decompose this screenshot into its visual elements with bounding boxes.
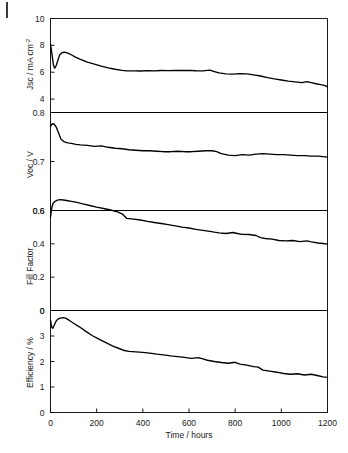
x-axis-tick-label: 1000: [272, 418, 291, 428]
panel-voc-frame: [51, 113, 328, 211]
panel-fill-factor-frame: [51, 211, 328, 311]
panel-efficiency-ytick-label: 0: [40, 408, 45, 418]
panel-voc-ytick-label: 0.8: [33, 108, 45, 118]
panel-efficiency-ytick-label: 3: [40, 331, 45, 341]
panel-jsc-ytick-label: 8: [40, 40, 45, 50]
panel-jsc-yticks: 46810: [35, 14, 54, 105]
panel-fill-factor-series-line: [51, 200, 328, 245]
panel-jsc: 46810 Jsc / mA cm-2: [24, 14, 328, 113]
panel-efficiency-ytick-label: 1: [40, 382, 45, 392]
panel-efficiency-yticks: 01230: [40, 306, 55, 418]
panel-efficiency-ytick-label: 2: [40, 357, 45, 367]
x-axis-title: Time / hours: [166, 430, 213, 440]
figure-edge-mark: [6, 2, 8, 18]
panel-efficiency-series-line: [51, 318, 328, 378]
panel-voc-yticks: 0.60.70.8: [33, 108, 55, 216]
x-axis-tick-label: 600: [182, 418, 196, 428]
panel-jsc-frame: [51, 19, 328, 113]
panel-jsc-axes: [51, 19, 328, 113]
panel-fill-factor: 00.20.40.6 Fill Factor: [25, 200, 328, 316]
panel-jsc-ylabel-group: Jsc / mA cm-2: [24, 38, 35, 90]
x-axis: 020040060080010001200 Time / hours: [48, 409, 337, 441]
panel-fill-factor-ytick-label: 0.4: [33, 239, 45, 249]
panel-jsc-ytick-label: 10: [35, 14, 45, 24]
panel-efficiency-frame: [51, 311, 328, 413]
figure-container: 46810 Jsc / mA cm-2 0.60.70.8 Voc / V 00…: [0, 0, 348, 453]
panel-fill-factor-ylabel: Fill Factor: [25, 248, 35, 285]
panel-efficiency-ylabel: Efficiency / %: [25, 337, 35, 388]
panel-voc-ylabel: Voc / V: [25, 151, 35, 178]
panel-efficiency-top-tick-label: 0: [40, 306, 45, 316]
panel-voc-series-line: [51, 124, 328, 157]
panel-jsc-ytick-label: 6: [40, 67, 45, 77]
panel-fill-factor-yticks: 00.20.40.6: [33, 206, 55, 316]
x-axis-tick-label: 1200: [318, 418, 337, 428]
x-axis-tick-label: 800: [228, 418, 242, 428]
panel-jsc-series-line: [51, 44, 328, 87]
panel-efficiency: 01230 Efficiency / %: [25, 306, 328, 418]
multi-panel-chart: 46810 Jsc / mA cm-2 0.60.70.8 Voc / V 00…: [0, 0, 348, 453]
panel-jsc-ylabel: Jsc / mA cm-2: [24, 38, 35, 90]
panel-jsc-ytick-label: 4: [40, 94, 45, 104]
panel-fill-factor-ytick-label: 0.6: [33, 206, 45, 216]
panel-voc: 0.60.70.8 Voc / V: [25, 108, 328, 216]
x-axis-tick-label: 0: [48, 418, 53, 428]
x-axis-tick-label: 400: [136, 418, 150, 428]
x-axis-tick-label: 200: [90, 418, 104, 428]
x-axis-ticks: 020040060080010001200: [48, 409, 337, 428]
